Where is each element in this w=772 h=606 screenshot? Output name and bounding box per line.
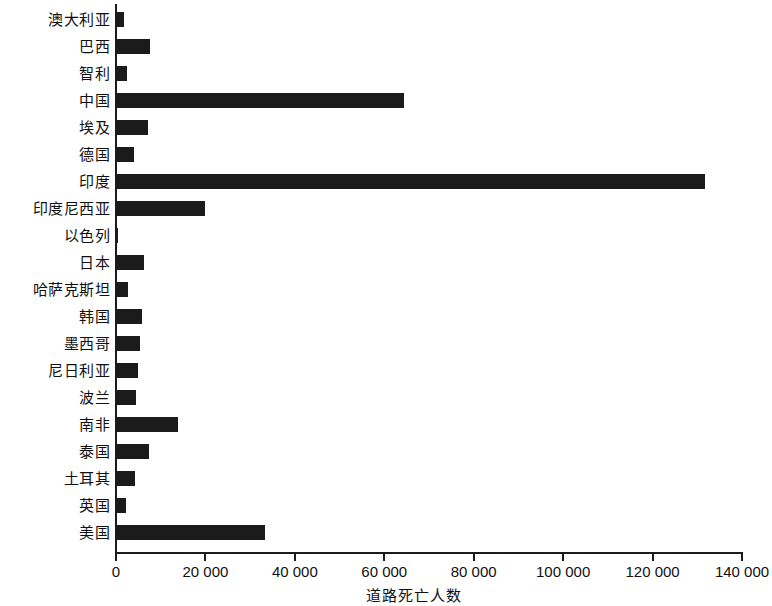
- x-tick-label: 60 000: [361, 563, 407, 580]
- x-tick-label: 40 000: [272, 563, 318, 580]
- x-tick-label: 80 000: [451, 563, 497, 580]
- x-tick-label: 0: [112, 563, 120, 580]
- x-tick-label: 120 000: [625, 563, 679, 580]
- x-axis-ticks: 020 00040 00060 00080 000100 000120 0001…: [0, 0, 772, 606]
- x-tick-mark: [741, 553, 743, 561]
- x-tick-mark: [294, 553, 296, 561]
- x-tick-mark: [473, 553, 475, 561]
- x-tick-label: 100 000: [536, 563, 590, 580]
- x-tick-label: 140 000: [715, 563, 769, 580]
- x-tick-mark: [652, 553, 654, 561]
- x-tick-mark: [204, 553, 206, 561]
- x-axis-title-text: 道路死亡人数: [366, 584, 462, 605]
- x-tick-mark: [383, 553, 385, 561]
- x-tick-mark: [115, 553, 117, 561]
- x-tick-label: 20 000: [182, 563, 228, 580]
- x-tick-mark: [562, 553, 564, 561]
- road-deaths-bar-chart: 澳大利亚巴西智利中国埃及德国印度印度尼西亚以色列日本哈萨克斯坦韩国墨西哥尼日利亚…: [0, 0, 772, 606]
- x-axis-title: 道路死亡人数: [0, 584, 772, 605]
- plot-area: 澳大利亚巴西智利中国埃及德国印度印度尼西亚以色列日本哈萨克斯坦韩国墨西哥尼日利亚…: [0, 0, 772, 606]
